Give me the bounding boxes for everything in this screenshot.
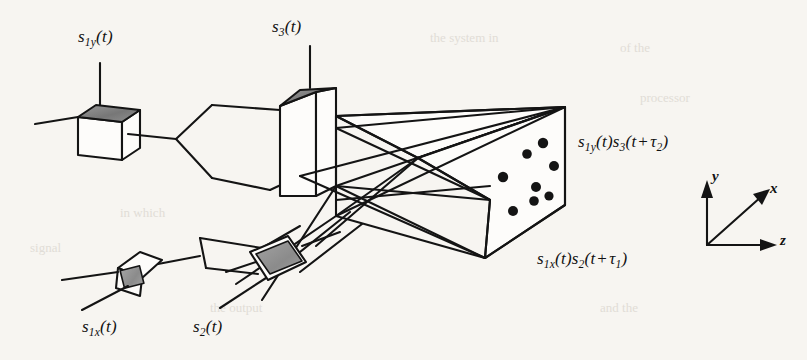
s3-box-right-face <box>316 88 336 196</box>
s1y-beam-lower <box>176 139 212 178</box>
diffraction-spot <box>508 206 518 216</box>
s2-lead-wire <box>220 278 266 308</box>
s1x-output-wire <box>158 256 200 264</box>
s1y-beam-upper <box>176 105 212 139</box>
axis-label-z: z <box>780 232 786 249</box>
label-s1x: s1x(t) <box>82 318 117 338</box>
transducer-s1x <box>62 252 200 310</box>
s1x-shaded-face <box>120 266 144 288</box>
label-lower-output: s1x(t)s2(t+τ1) <box>537 250 627 270</box>
label-upper-output: s1y(t)s3(t+τ2) <box>578 133 668 153</box>
axis-x-line <box>707 196 762 245</box>
label-s3: s3(t) <box>272 18 301 38</box>
diffraction-spot <box>522 149 532 159</box>
axis-label-x: x <box>770 180 778 197</box>
axis-label-y: y <box>712 168 719 185</box>
diffraction-spot <box>549 161 559 171</box>
diffraction-spot <box>498 172 508 182</box>
s1x-input-wire <box>62 272 118 280</box>
label-s1y: s1y(t) <box>78 28 113 48</box>
diagram-svg <box>0 0 807 360</box>
transducer-s1y <box>35 63 176 160</box>
diffraction-spot <box>544 191 553 200</box>
lower-beam-h <box>200 238 206 268</box>
s2-input-wire <box>226 262 256 272</box>
diffraction-spot <box>538 138 548 148</box>
lower-beam-f <box>200 238 262 248</box>
figure-container: the system in of the in which signal the… <box>0 0 807 360</box>
s1y-beam-upper-2 <box>212 105 280 110</box>
s1y-input-wire <box>35 117 78 124</box>
axis-z-arrowhead <box>760 239 777 251</box>
label-s2: s2(t) <box>193 318 222 338</box>
s1x-lead-wire <box>82 286 128 310</box>
lower-beam-b <box>300 224 362 272</box>
s1y-beam-lower-2 <box>212 178 270 190</box>
diffraction-spot <box>529 196 539 206</box>
diffraction-spot <box>531 182 541 192</box>
s1y-cube-left-face <box>78 117 122 160</box>
